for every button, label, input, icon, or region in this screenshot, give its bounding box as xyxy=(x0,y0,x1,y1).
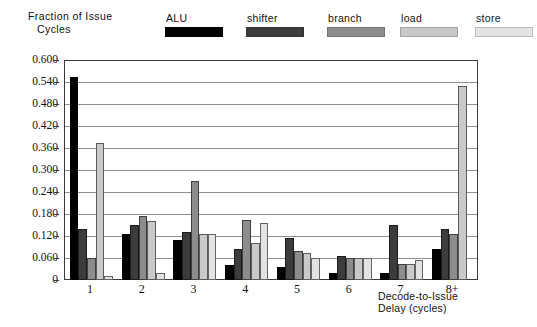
gridline xyxy=(65,236,477,237)
y-axis-tick-mark xyxy=(54,214,59,215)
legend-label-branch: branch xyxy=(327,12,389,24)
legend-label-load: load xyxy=(400,12,462,24)
x-axis-tick-label: 3 xyxy=(168,282,220,296)
x-axis-tick-label: 6 xyxy=(323,282,375,296)
y-axis-tick-marks xyxy=(0,60,64,280)
legend-label-alu: ALU xyxy=(165,12,227,24)
y-axis-title-line2: Cycles xyxy=(28,23,112,36)
x-axis-title: Decode-to-IssueDelay (cycles) xyxy=(378,290,458,314)
y-axis-tick-mark xyxy=(54,148,59,149)
legend-item-shifter[interactable]: shifter xyxy=(246,12,308,37)
legend-item-alu[interactable]: ALU xyxy=(165,12,227,37)
legend-swatch-store xyxy=(475,27,533,37)
y-axis-tick-mark xyxy=(54,104,59,105)
y-axis-tick-mark xyxy=(54,192,59,193)
legend-label-store: store xyxy=(475,12,537,24)
gridline xyxy=(65,82,477,83)
gridline xyxy=(65,214,477,215)
legend: ALUshifterbranchloadstore xyxy=(165,12,490,46)
plot-area xyxy=(64,60,478,280)
y-axis-tick-mark xyxy=(54,60,59,61)
legend-item-branch[interactable]: branch xyxy=(327,12,389,37)
x-axis-tick-label: 5 xyxy=(271,282,323,296)
gridline xyxy=(65,104,477,105)
x-axis-title-line2: Delay (cycles) xyxy=(378,302,458,314)
y-axis-title: Fraction of IssueCycles xyxy=(28,10,112,35)
gridline xyxy=(65,192,477,193)
legend-swatch-load xyxy=(400,27,458,37)
legend-swatch-branch xyxy=(327,27,385,37)
x-axis-tick-label: 4 xyxy=(219,282,271,296)
x-axis-tick-label: 1 xyxy=(64,282,116,296)
y-axis-tick-mark xyxy=(54,82,59,83)
gridline xyxy=(65,126,477,127)
legend-swatch-shifter xyxy=(246,27,304,37)
y-axis-tick-mark xyxy=(54,126,59,127)
y-axis-title-line1: Fraction of Issue xyxy=(28,10,112,22)
y-axis-tick-mark xyxy=(54,170,59,171)
gridline xyxy=(65,170,477,171)
x-axis-tick-label: 2 xyxy=(116,282,168,296)
legend-item-store[interactable]: store xyxy=(475,12,537,37)
gridline xyxy=(65,258,477,259)
gridline xyxy=(65,148,477,149)
legend-swatch-alu xyxy=(165,27,223,37)
y-axis-tick-mark xyxy=(54,236,59,237)
legend-label-shifter: shifter xyxy=(246,12,308,24)
x-axis-title-line1: Decode-to-Issue xyxy=(378,290,458,302)
y-axis-tick-mark xyxy=(54,258,59,259)
legend-item-load[interactable]: load xyxy=(400,12,462,37)
y-axis-tick-mark xyxy=(54,280,59,281)
